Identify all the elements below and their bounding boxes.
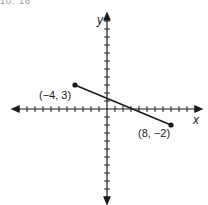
y-axis-up-arrow-icon — [104, 13, 110, 20]
line-segment — [72, 82, 173, 127]
x-axis-right-arrow-icon — [195, 106, 202, 112]
x-axis-left-arrow-icon — [12, 106, 19, 112]
y-axis-label: y — [97, 14, 103, 26]
point-a-dot — [72, 82, 77, 87]
x-axis-label: x — [193, 114, 199, 126]
point-b-label: (8, −2) — [138, 128, 170, 139]
axes — [12, 13, 202, 204]
segment-line — [75, 85, 171, 125]
point-a-label: (−4, 3) — [39, 90, 71, 101]
coordinate-plane — [0, 0, 208, 205]
y-axis-down-arrow-icon — [104, 197, 110, 204]
